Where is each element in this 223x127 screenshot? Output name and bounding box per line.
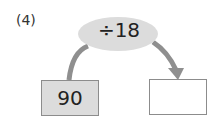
answer-box[interactable] xyxy=(149,79,207,115)
operation-text: ÷18 xyxy=(78,18,160,42)
start-box: 90 xyxy=(41,80,99,116)
left-arc xyxy=(69,46,88,80)
right-arc xyxy=(153,42,176,70)
